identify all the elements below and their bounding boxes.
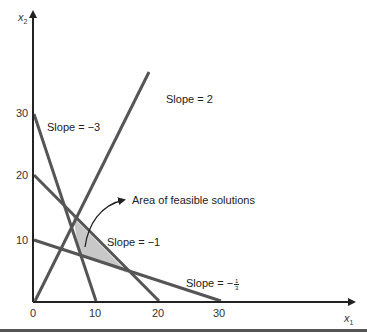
x-tick-0: 0 — [30, 308, 36, 319]
y-tick-20: 20 — [16, 170, 28, 181]
label-slope-neg-third: Slope = −13 — [186, 278, 239, 291]
line-slope-2 — [35, 72, 149, 301]
bottom-divider — [0, 329, 367, 332]
y-axis-label: x2 — [18, 12, 27, 25]
label-slope-neg3: Slope = −3 — [47, 122, 100, 133]
linear-programming-diagram: x2 x1 0 10 20 30 10 20 30 Slope = 2 Slop… — [0, 0, 367, 334]
label-feasible-area: Area of feasible solutions — [132, 195, 255, 206]
line-slope-neg-third — [34, 240, 221, 301]
x-tick-30: 30 — [213, 308, 225, 319]
plot-canvas — [0, 0, 367, 334]
x-axis-label: x1 — [344, 313, 353, 326]
fraction-one-third: 13 — [234, 278, 239, 291]
x-tick-20: 20 — [152, 308, 164, 319]
label-slope-2: Slope = 2 — [166, 94, 213, 105]
y-tick-10: 10 — [16, 235, 28, 246]
label-slope-neg1: Slope = −1 — [107, 237, 160, 248]
y-tick-30: 30 — [16, 108, 28, 119]
x-tick-10: 10 — [89, 308, 101, 319]
